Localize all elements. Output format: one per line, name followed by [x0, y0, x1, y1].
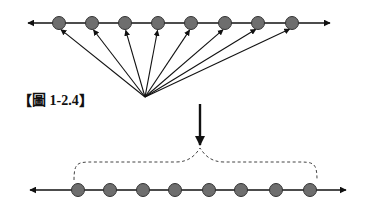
point-dot	[185, 17, 198, 30]
point-dot	[86, 17, 99, 30]
point-dot	[235, 184, 248, 197]
point-dot	[169, 184, 182, 197]
point-dot	[252, 17, 265, 30]
point-dot	[104, 184, 117, 197]
point-dot	[286, 17, 299, 30]
brace-path	[74, 148, 317, 180]
fan-arrow	[145, 29, 256, 97]
figure-caption: 【圖 1-2.4】	[18, 89, 93, 109]
fan-arrow	[126, 30, 145, 97]
dashed-brace	[74, 148, 317, 180]
fan-arrows	[61, 29, 290, 97]
diagram-canvas: 【圖 1-2.4】	[0, 0, 370, 210]
point-dot	[152, 17, 165, 30]
fan-arrow	[61, 30, 145, 97]
point-dot	[203, 184, 216, 197]
point-dot	[137, 184, 150, 197]
fan-arrow	[94, 30, 145, 97]
point-dot	[119, 17, 132, 30]
point-dot	[270, 184, 283, 197]
point-dot	[304, 184, 317, 197]
fan-arrow	[145, 29, 290, 97]
point-dot	[219, 17, 232, 30]
point-dot	[72, 184, 85, 197]
point-dot	[53, 17, 66, 30]
fan-arrow	[145, 30, 223, 97]
